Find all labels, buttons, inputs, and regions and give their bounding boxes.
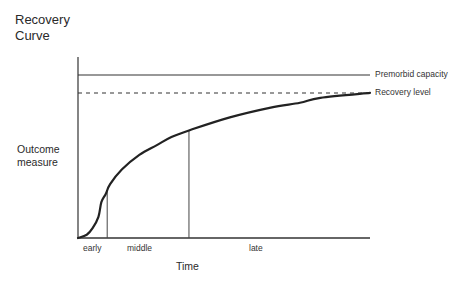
phase-label-late: late bbox=[249, 243, 263, 253]
recovery-level-label: Recovery level bbox=[375, 87, 431, 97]
phase-label-early: early bbox=[83, 243, 101, 253]
x-axis-label: Time bbox=[176, 260, 199, 272]
recovery-curve-line bbox=[78, 93, 370, 238]
phase-label-middle: middle bbox=[127, 243, 152, 253]
recovery-curve-plot bbox=[0, 0, 465, 281]
premorbid-capacity-label: Premorbid capacity bbox=[375, 69, 448, 79]
